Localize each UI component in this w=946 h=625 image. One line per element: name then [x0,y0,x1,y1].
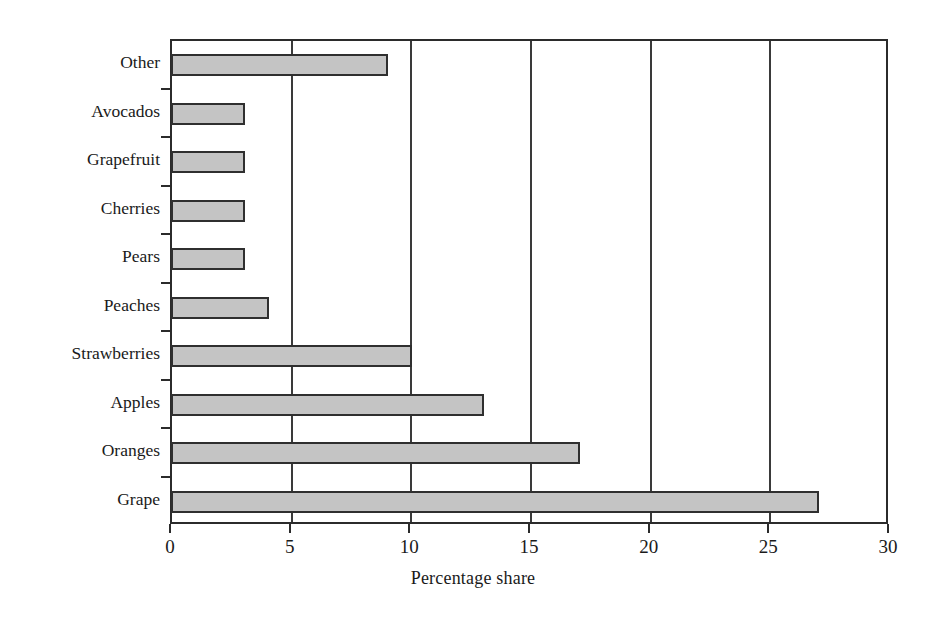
x-axis-tick-25 [767,524,769,533]
y-axis-tick-6 [161,330,170,332]
bar-cherries [171,200,245,222]
y-axis-tick-1 [161,88,170,90]
y-axis-tick-8 [161,427,170,429]
x-axis-tick-label-5: 5 [260,536,320,558]
y-axis-label-strawberries: Strawberries [0,345,160,363]
bar-pears [171,248,245,270]
x-axis-tick-20 [648,524,650,533]
y-axis-label-other: Other [0,54,160,72]
y-axis-tick-2 [161,136,170,138]
x-axis-tick-10 [408,524,410,533]
bar-avocados [171,103,245,125]
plot-area [170,39,888,524]
bar-grapefruit [171,151,245,173]
bar-other [171,54,388,76]
y-axis-label-cherries: Cherries [0,200,160,218]
y-axis-tick-9 [161,476,170,478]
x-axis-tick-label-25: 25 [738,536,798,558]
y-axis-tick-7 [161,379,170,381]
x-axis-tick-0 [169,524,171,533]
y-axis-label-grape: Grape [0,491,160,509]
gridline-x-20 [650,41,652,522]
y-axis-label-apples: Apples [0,394,160,412]
bar-chart: Percentage share OtherAvocadosGrapefruit… [0,0,946,625]
bar-grape [171,491,819,513]
y-axis-tick-3 [161,185,170,187]
bar-apples [171,394,484,416]
x-axis-tick-15 [528,524,530,533]
x-axis-tick-30 [887,524,889,533]
gridline-x-25 [769,41,771,522]
x-axis-tick-label-30: 30 [858,536,918,558]
y-axis-label-pears: Pears [0,248,160,266]
y-axis-label-peaches: Peaches [0,297,160,315]
y-axis-tick-5 [161,282,170,284]
bar-peaches [171,297,269,319]
y-axis-tick-4 [161,233,170,235]
y-axis-label-avocados: Avocados [0,103,160,121]
x-axis-tick-label-15: 15 [499,536,559,558]
y-axis-label-oranges: Oranges [0,442,160,460]
x-axis-tick-label-10: 10 [379,536,439,558]
bar-oranges [171,442,580,464]
x-axis-title: Percentage share [0,568,946,589]
x-axis-tick-5 [289,524,291,533]
x-axis-tick-label-20: 20 [619,536,679,558]
y-axis-label-grapefruit: Grapefruit [0,151,160,169]
x-axis-tick-label-0: 0 [140,536,200,558]
bar-strawberries [171,345,412,367]
